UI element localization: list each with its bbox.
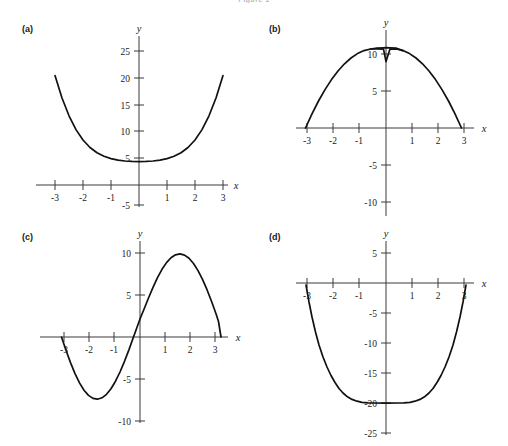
plot-a-svg: -3 -2 -1 1 2 3 25 20 15 10 5 -5 x y — [0, 0, 254, 223]
y-tick-label-neg5: -5 — [369, 161, 377, 171]
y-axis-label: y — [383, 17, 389, 28]
x-tick-label-neg3: -3 — [303, 136, 311, 146]
y-tick-label-neg5: -5 — [369, 309, 377, 319]
x-tick-label-3: 3 — [221, 193, 226, 203]
x-tick-label-3: 3 — [462, 136, 467, 146]
x-tick-label-1: 1 — [163, 345, 168, 355]
y-tick-label-20: 20 — [121, 74, 131, 84]
x-tick-label-2: 2 — [436, 136, 441, 146]
plot-d-svg: -3 -2 -1 1 2 3 5 -5 -10 -15 -20 -25 x y — [254, 223, 508, 446]
curve-c — [62, 254, 222, 399]
x-tick-label-2: 2 — [436, 291, 441, 301]
plot-c-svg: -3 -2 -1 1 2 3 10 5 -5 -10 x y — [0, 223, 254, 446]
plot-panel-d: (d) -3 -2 -1 1 2 3 5 -5 -10 -15 -20 -25 … — [254, 223, 508, 446]
x-tick-label-neg2: -2 — [79, 193, 87, 203]
x-tick-label-neg1: -1 — [355, 136, 363, 146]
y-tick-label-neg10: -10 — [118, 417, 131, 427]
y-tick-label-neg10: -10 — [364, 339, 377, 349]
x-tick-label-1: 1 — [165, 193, 170, 203]
y-tick-label-neg5: -5 — [122, 201, 130, 211]
y-axis-label: y — [136, 23, 142, 34]
x-tick-label-2: 2 — [188, 345, 193, 355]
y-tick-label-10: 10 — [121, 127, 131, 137]
plot-b-svg: -3 -2 -1 1 2 3 10 5 -5 -10 x y — [254, 0, 508, 223]
y-tick-label-5: 5 — [372, 249, 377, 259]
x-tick-label-neg3: -3 — [51, 193, 59, 203]
y-tick-label-15: 15 — [121, 101, 131, 111]
x-tick-label-2: 2 — [193, 193, 198, 203]
x-tick-label-neg2: -2 — [329, 291, 337, 301]
y-tick-label-neg15: -15 — [364, 369, 377, 379]
y-axis-label: y — [137, 228, 143, 239]
y-tick-label-neg20: -20 — [364, 399, 377, 409]
y-axis-label: y — [383, 228, 389, 239]
curve-b — [306, 49, 462, 128]
x-tick-label-neg2: -2 — [85, 345, 93, 355]
y-tick-label-5: 5 — [372, 87, 377, 97]
y-tick-label-25: 25 — [121, 47, 131, 57]
y-tick-label-neg25: -25 — [364, 429, 377, 439]
y-tick-label-5: 5 — [125, 154, 130, 164]
x-axis-label: x — [481, 123, 487, 134]
x-axis-label: x — [481, 278, 487, 289]
x-tick-label-neg1: -1 — [355, 291, 363, 301]
x-axis-label: x — [235, 332, 241, 343]
x-tick-label-1: 1 — [410, 136, 415, 146]
x-tick-label-neg1: -1 — [107, 193, 115, 203]
plot-panel-b: (b) -3 -2 -1 1 2 3 10 5 -5 -10 x y — [254, 0, 508, 223]
x-tick-label-neg2: -2 — [329, 136, 337, 146]
x-tick-label-3: 3 — [213, 345, 218, 355]
x-tick-label-1: 1 — [410, 291, 415, 301]
plot-panel-a: (a) -3 -2 -1 1 2 3 25 20 15 10 5 -5 x — [0, 0, 254, 223]
y-tick-label-neg10: -10 — [364, 198, 377, 208]
y-tick-label-neg5: -5 — [123, 375, 131, 385]
y-tick-label-5: 5 — [126, 291, 131, 301]
x-axis-label: x — [233, 180, 239, 191]
plot-panel-c: (c) -3 -2 -1 1 2 3 10 5 -5 -10 x y — [0, 223, 254, 446]
y-tick-label-10: 10 — [122, 249, 132, 259]
y-tick-label-10: 10 — [368, 50, 378, 60]
x-tick-label-neg1: -1 — [110, 345, 118, 355]
